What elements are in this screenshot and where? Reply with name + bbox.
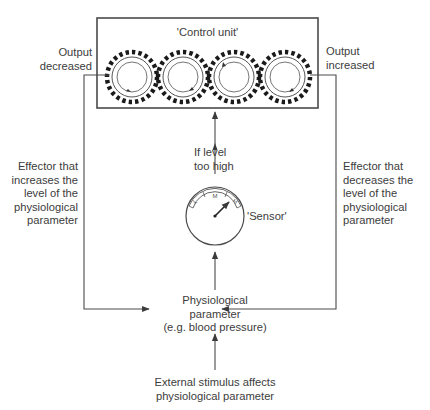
gear-icon [260, 52, 310, 102]
gauge-label-medium: M [213, 193, 218, 199]
output-decreased-line1: Output [8, 46, 92, 60]
sensor-label: 'Sensor' [247, 210, 307, 224]
stimulus-label: External stimulus affects physiological … [130, 376, 300, 403]
effector-right-line3: level of the [343, 187, 429, 201]
gear-icon [158, 52, 208, 102]
output-decreased-line2: decreased [8, 60, 92, 74]
effector-right-line2: decreases the [343, 174, 429, 188]
output-decreased-label: Output decreased [8, 46, 92, 73]
condition-label: If level too high [194, 146, 264, 173]
left-effector-path [84, 75, 149, 309]
effector-increase-label: Effector that increases the level of the… [2, 160, 78, 228]
gear-icon [107, 52, 157, 102]
parameter-line3: (e.g. blood pressure) [145, 321, 285, 335]
output-increased-label: Output increased [326, 45, 416, 72]
parameter-label: Physiological parameter (e.g. blood pres… [145, 294, 285, 335]
parameter-line2: parameter [145, 308, 285, 322]
output-increased-line1: Output [326, 45, 416, 59]
effector-right-line4: physiological [343, 201, 429, 215]
condition-line2: too high [194, 160, 264, 174]
effector-left-line2: increases the [2, 174, 78, 188]
stimulus-line1: External stimulus affects [130, 376, 300, 390]
effector-left-line5: parameter [2, 214, 78, 228]
effector-left-line3: level of the [2, 187, 78, 201]
parameter-line1: Physiological [145, 294, 285, 308]
effector-left-line1: Effector that [2, 160, 78, 174]
right-effector-path [222, 75, 336, 309]
sensor-text: 'Sensor' [247, 210, 307, 224]
gear-icon [209, 52, 259, 102]
effector-left-line4: physiological [2, 201, 78, 215]
stimulus-line2: physiological parameter [130, 390, 300, 404]
control-unit-label: 'Control unit' [140, 26, 275, 40]
output-increased-line2: increased [326, 59, 416, 73]
condition-line1: If level [194, 146, 264, 160]
effector-decrease-label: Effector that decreases the level of the… [343, 160, 429, 228]
control-unit-text: 'Control unit' [140, 26, 275, 40]
effector-right-line5: parameter [343, 214, 429, 228]
effector-right-line1: Effector that [343, 160, 429, 174]
